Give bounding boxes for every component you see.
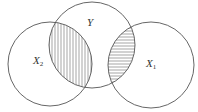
- label-y-main: Y: [87, 16, 93, 28]
- label-x2: X2: [33, 55, 43, 68]
- label-x1: X1: [146, 58, 156, 71]
- venn-diagram: [0, 0, 198, 112]
- label-y: Y: [87, 17, 93, 28]
- label-x2-main: X: [33, 54, 40, 66]
- label-x1-sub: 1: [153, 63, 157, 71]
- label-x2-sub: 2: [40, 60, 44, 68]
- label-x1-main: X: [146, 57, 153, 69]
